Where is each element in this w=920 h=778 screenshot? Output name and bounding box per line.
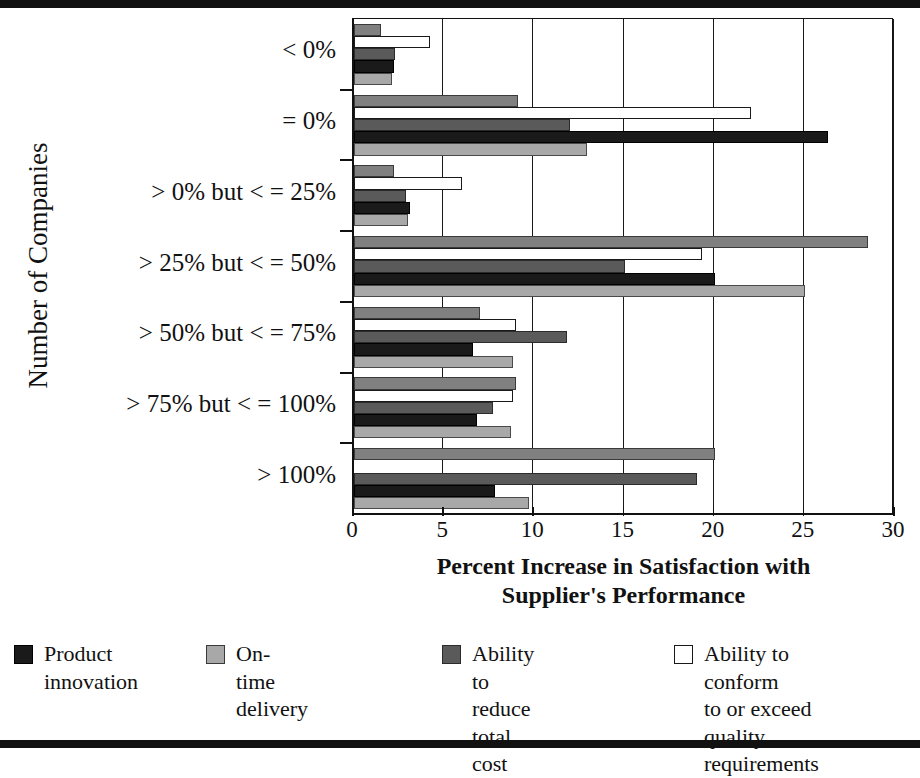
x-tick-mark-20 [713,507,715,516]
category-label-5: > 75% but < = 100% [0,390,352,418]
bar-group-5-series-2 [354,402,493,414]
bar-group-1-series-2 [354,119,570,131]
bar-group-6-series-3 [354,485,495,497]
bar-group-1-series-1 [354,107,751,119]
bar-group-5-series-1 [354,390,513,402]
bar-group-0-series-1 [354,36,430,48]
legend-label-2: Ability to reducetotal cost [472,640,534,778]
legend-swatch-light-gray-icon [206,645,225,664]
category-label-2: > 0% but < = 25% [0,178,352,206]
bar-group-0-series-4 [354,73,392,85]
bar-group-0-series-0 [354,24,381,36]
category-label-4: > 50% but < = 75% [0,319,352,347]
bar-group-4-series-2 [354,331,567,343]
bar-group-4-series-4 [354,356,513,368]
legend-label-3-line-3: quality requirements [704,723,819,778]
bar-group-0-series-2 [354,48,395,60]
bar-group-0-series-3 [354,60,394,72]
y-tick-mark-3 [340,230,354,232]
gridline-x-30 [893,19,894,513]
bar-group-3-series-4 [354,285,805,297]
category-label-0: < 0% [0,36,352,64]
y-tick-mark-5 [340,372,354,374]
y-tick-mark-1 [340,89,354,91]
x-tick-mark-5 [442,507,444,516]
legend-swatch-black-icon [14,645,33,664]
bar-group-2-series-3 [354,202,410,214]
x-axis-title-line-1: Percent Increase in Satisfaction with [352,552,895,581]
gridline-x-25 [803,19,804,513]
legend-label-0: Productinnovation [44,640,138,695]
legend-label-2-line-2: total cost [472,723,534,778]
bar-group-4-series-0 [354,307,480,319]
x-tick-label-20: 20 [683,517,743,543]
bar-group-3-series-1 [354,248,702,260]
category-label-3: > 25% but < = 50% [0,249,352,277]
y-tick-mark-2 [340,159,354,161]
bar-group-2-series-1 [354,177,462,189]
x-axis-title-line-2: Supplier's Performance [352,581,895,610]
legend-label-0-line-1: Product [44,640,138,668]
x-tick-mark-30 [893,507,895,516]
bar-group-6-series-2 [354,473,697,485]
legend-label-2-line-1: Ability to reduce [472,640,534,723]
y-tick-mark-4 [340,301,354,303]
category-label-6: > 100% [0,461,352,489]
legend-label-3-line-1: Ability to conform [704,640,819,695]
bar-group-4-series-3 [354,343,473,355]
gridline-x-20 [713,19,714,513]
x-tick-label-5: 5 [412,517,472,543]
bar-group-2-series-0 [354,165,394,177]
bar-group-4-series-1 [354,319,516,331]
bar-group-6-series-0 [354,448,715,460]
x-tick-mark-15 [623,507,625,516]
x-tick-mark-0 [352,507,354,516]
bar-group-5-series-3 [354,414,477,426]
bar-group-5-series-0 [354,377,516,389]
bar-group-5-series-4 [354,426,511,438]
bar-group-2-series-2 [354,190,406,202]
category-label-1: = 0% [0,107,352,135]
plot-area [352,18,893,513]
bar-group-1-series-4 [354,143,587,155]
legend-label-1-line-1: On-time delivery [236,640,308,723]
bar-group-3-series-3 [354,273,715,285]
legend-label-3-line-2: to or exceed [704,695,819,723]
legend-swatch-dark-gray-icon [442,645,461,664]
x-tick-label-30: 30 [863,517,920,543]
x-axis-title: Percent Increase in Satisfaction with Su… [352,552,895,611]
x-tick-mark-10 [532,507,534,516]
x-tick-label-15: 15 [593,517,653,543]
bar-group-3-series-2 [354,260,625,272]
x-tick-label-25: 25 [773,517,833,543]
legend-label-0-line-2: innovation [44,668,138,696]
legend-swatch-white-icon [674,645,693,664]
legend-label-1: On-time delivery [236,640,308,723]
chart-plot-wrapper: Number of Companies 051015202530 < 0%= 0… [0,0,920,620]
bar-group-3-series-0 [354,236,868,248]
legend-label-3: Ability to conformto or exceedquality re… [704,640,819,778]
bar-group-1-series-3 [354,131,828,143]
x-tick-label-10: 10 [502,517,562,543]
x-tick-label-0: 0 [322,517,382,543]
chart-legend: ProductinnovationOn-time deliveryAbility… [14,640,914,735]
x-tick-mark-25 [803,507,805,516]
bar-group-1-series-0 [354,95,518,107]
bar-group-2-series-4 [354,214,408,226]
y-tick-mark-6 [340,442,354,444]
